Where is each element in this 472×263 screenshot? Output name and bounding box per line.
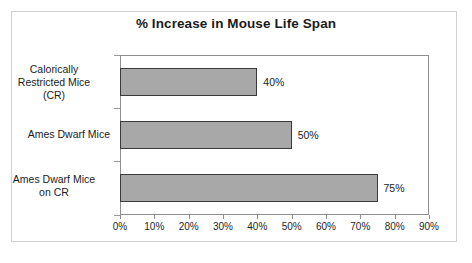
- x-axis-ticks: [120, 215, 429, 220]
- x-axis-tick: [120, 215, 121, 219]
- y-axis-label-calorically-restricted-mice: Calorically Restricted Mice (CR): [0, 63, 110, 102]
- y-axis-label-ames-dwarf-mice: Ames Dwarf Mice: [0, 128, 110, 141]
- x-axis-tick: [429, 215, 430, 219]
- y-axis-labels: Calorically Restricted Mice (CR) Ames Dw…: [0, 55, 115, 215]
- x-axis-tick: [292, 215, 293, 219]
- x-axis-tick: [189, 215, 190, 219]
- bar-ames-dwarf-mice-on-cr[interactable]: [120, 174, 378, 202]
- x-axis-tick: [223, 215, 224, 219]
- x-axis-tick: [395, 215, 396, 219]
- bar-calorically-restricted-mice[interactable]: [120, 68, 257, 96]
- y-axis-label-ames-dwarf-mice-on-cr: Ames Dwarf Mice on CR: [0, 173, 110, 199]
- bar-value-label: 75%: [384, 182, 405, 194]
- y-axis-label-line: (CR): [0, 89, 110, 102]
- y-axis-label-line: Restricted Mice: [0, 76, 110, 89]
- bar-value-label: 40%: [263, 76, 284, 88]
- y-axis-label-line: Ames Dwarf Mice: [0, 173, 110, 186]
- y-axis-label-line: on CR: [0, 186, 110, 199]
- x-axis-tick: [154, 215, 155, 219]
- chart-title: % Increase in Mouse Life Span: [0, 16, 472, 31]
- bars-layer: 40% 50% 75%: [120, 55, 429, 215]
- bar-value-label: 50%: [298, 129, 319, 141]
- y-axis-label-line: Calorically: [0, 63, 110, 76]
- x-axis-tick-label: 90%: [409, 221, 449, 232]
- x-axis-tick: [326, 215, 327, 219]
- bar-ames-dwarf-mice[interactable]: [120, 121, 292, 149]
- bar-row: 50%: [120, 108, 429, 161]
- bar-row: 75%: [120, 162, 429, 215]
- bar-row: 40%: [120, 55, 429, 108]
- x-axis-tick: [257, 215, 258, 219]
- y-axis-label-line: Ames Dwarf Mice: [0, 128, 110, 141]
- x-axis-tick: [360, 215, 361, 219]
- x-axis-labels: 0%10%20%30%40%50%60%70%80%90%: [0, 221, 472, 237]
